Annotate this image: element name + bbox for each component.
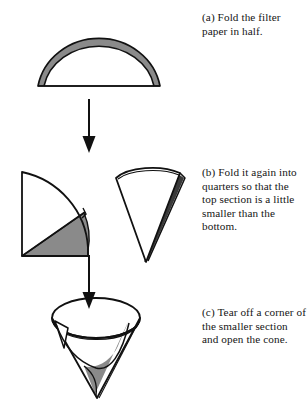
arrow-a-to-b (78, 98, 100, 154)
step-a-illustration (18, 6, 178, 98)
step-b-cone-wedge (104, 160, 196, 272)
filter-paper-folding-figure: (a) Fold the filter paper in half. (b) F… (0, 0, 307, 410)
caption-step-a: (a) Fold the filter paper in half. (202, 11, 306, 38)
caption-step-b: (b) Fold it again into quarters so that … (202, 166, 306, 234)
wedge-body-outline (116, 168, 180, 262)
arrow-head (83, 136, 96, 153)
step-c-open-cone (40, 294, 160, 410)
step-b-quarter-circle (6, 164, 102, 268)
caption-step-c: (c) Tear off a corner of the smaller sec… (202, 306, 306, 347)
